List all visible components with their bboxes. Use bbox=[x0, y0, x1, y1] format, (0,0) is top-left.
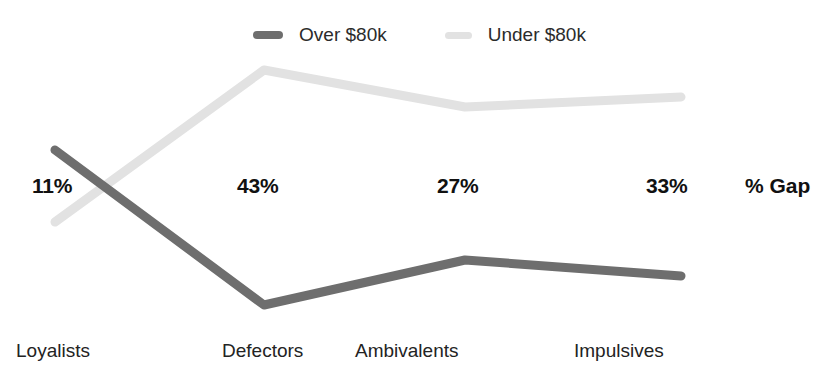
gap-label: 33% bbox=[646, 174, 687, 198]
category-label-defectors: Defectors bbox=[222, 340, 303, 362]
gap-label: 43% bbox=[237, 174, 278, 198]
chart-figure: Over $80k Under $80k 11%43%27%33% % Gap … bbox=[0, 0, 839, 382]
category-label-loyalists: Loyalists bbox=[16, 340, 90, 362]
gap-label: 27% bbox=[437, 174, 478, 198]
gap-series-annotation: % Gap bbox=[745, 174, 810, 198]
category-label-impulsives: Impulsives bbox=[574, 340, 664, 362]
series-line-over-80k bbox=[55, 150, 681, 305]
category-label-ambivalents: Ambivalents bbox=[355, 340, 459, 362]
gap-label: 11% bbox=[32, 174, 72, 198]
line-chart-plot bbox=[0, 0, 839, 382]
series-line-under-80k bbox=[55, 70, 681, 222]
